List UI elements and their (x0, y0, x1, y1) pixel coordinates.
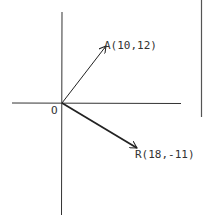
origin-label: O (51, 104, 58, 117)
vector-r-label: R(18,-11) (135, 148, 195, 161)
vector-diagram: O A(10,12) R(18,-11) (0, 0, 205, 223)
x-axis (12, 103, 181, 104)
vector-a-label: A(10,12) (104, 39, 157, 52)
vector-r-arrow (62, 103, 137, 148)
vector-a-arrow (62, 46, 106, 103)
y-axis (62, 12, 63, 215)
